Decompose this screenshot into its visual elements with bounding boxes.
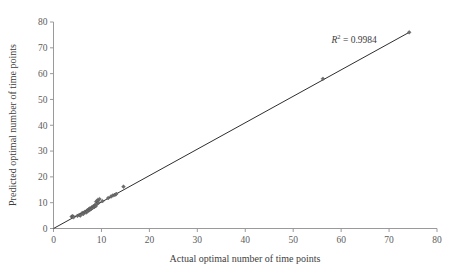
x-tick-label-10: 10: [97, 235, 107, 245]
x-axis-title: Actual optimal number of time points: [170, 253, 321, 264]
y-tick-label-70: 70: [38, 43, 48, 53]
y-tick-label-40: 40: [38, 121, 48, 131]
x-tick-label-50: 50: [288, 235, 298, 245]
x-tick-label-70: 70: [384, 235, 394, 245]
y-axis-title: Predicted optimal number of time points: [7, 44, 18, 206]
y-tick-label-0: 0: [43, 224, 48, 234]
y-tick-label-60: 60: [38, 69, 48, 79]
regression-trend-line: [54, 32, 410, 228]
y-tick-labels: 01020304050607080: [38, 17, 48, 234]
data-point: [407, 30, 411, 34]
x-tick-label-40: 40: [241, 235, 251, 245]
x-tick-label-80: 80: [432, 235, 442, 245]
x-tick-labels: 01020304050607080: [51, 235, 442, 245]
x-tick-label-0: 0: [51, 235, 56, 245]
y-tick-label-50: 50: [38, 95, 48, 105]
r-squared-annotation: R2 = 0.9984: [331, 33, 378, 45]
x-tick-label-60: 60: [336, 235, 346, 245]
y-tick-label-20: 20: [38, 172, 48, 182]
scatter-plot-svg: 01020304050607080 01020304050607080 R2 =…: [0, 0, 454, 276]
data-point: [122, 185, 126, 189]
y-tick-label-80: 80: [38, 17, 48, 27]
y-tick-label-30: 30: [38, 146, 48, 156]
x-tick-marks: [54, 229, 438, 233]
chart-figure: 01020304050607080 01020304050607080 R2 =…: [0, 0, 454, 276]
x-tick-label-20: 20: [145, 235, 155, 245]
y-tick-label-10: 10: [38, 198, 48, 208]
x-tick-label-30: 30: [193, 235, 203, 245]
y-tick-marks: [50, 22, 54, 229]
